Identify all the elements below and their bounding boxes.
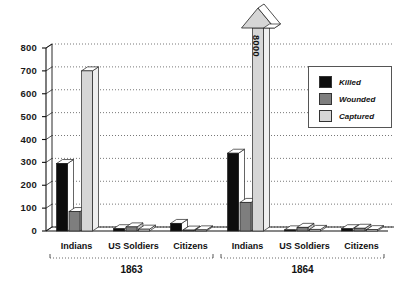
y-tick-label: 700 <box>7 65 37 76</box>
category-label: Citizens <box>327 241 397 251</box>
legend: KilledWoundedCaptured <box>308 66 392 128</box>
legend-swatch <box>319 110 332 122</box>
year-label: 1863 <box>102 264 162 275</box>
y-tick-label: 800 <box>7 42 37 53</box>
chart-background <box>0 0 402 296</box>
legend-swatch <box>319 76 332 88</box>
y-tick-label: 400 <box>7 134 37 145</box>
legend-item-killed: Killed <box>319 76 361 88</box>
y-tick-label: 500 <box>7 111 37 122</box>
y-tick-label: 600 <box>7 88 37 99</box>
legend-swatch <box>319 93 332 105</box>
arrow-value-label: 8000 <box>251 35 261 57</box>
year-label: 1864 <box>273 264 333 275</box>
legend-item-wounded: Wounded <box>319 93 375 105</box>
y-tick-label: 300 <box>7 156 37 167</box>
legend-item-captured: Captured <box>319 110 374 122</box>
bar-chart <box>0 0 402 296</box>
legend-label: Captured <box>339 112 374 121</box>
legend-label: Wounded <box>339 95 375 104</box>
y-tick-label: 0 <box>7 225 37 236</box>
y-tick-label: 200 <box>7 179 37 190</box>
y-tick-label: 100 <box>7 202 37 213</box>
legend-label: Killed <box>339 78 361 87</box>
